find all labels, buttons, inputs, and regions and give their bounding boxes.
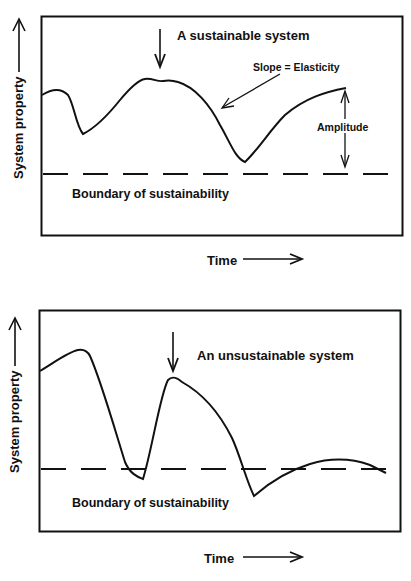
panel-title: A sustainable system	[177, 28, 309, 43]
x-axis-label: Time	[204, 551, 234, 566]
panel-unsustainable: System property An unsustainable system …	[7, 311, 401, 567]
diagram-canvas: System property A sustainable system Slo…	[0, 0, 411, 581]
system-curve	[42, 79, 346, 162]
y-axis-label-group: System property	[11, 19, 26, 179]
panel-sustainable: System property A sustainable system Slo…	[11, 17, 403, 269]
x-axis-label: Time	[207, 253, 237, 268]
panel-title: An unsustainable system	[197, 348, 354, 363]
diagonal-arrow-head	[222, 98, 234, 108]
amplitude-label: Amplitude	[317, 121, 368, 133]
slope-label: Slope = Elasticity	[253, 61, 340, 73]
y-axis-label: System property	[11, 76, 26, 179]
y-axis-label: System property	[7, 370, 22, 473]
boundary-label: Boundary of sustainability	[72, 496, 229, 510]
y-axis-label-group: System property	[7, 318, 22, 473]
diagonal-arrow-icon	[223, 74, 280, 107]
boundary-label: Boundary of sustainability	[72, 187, 229, 201]
system-curve	[40, 350, 386, 496]
